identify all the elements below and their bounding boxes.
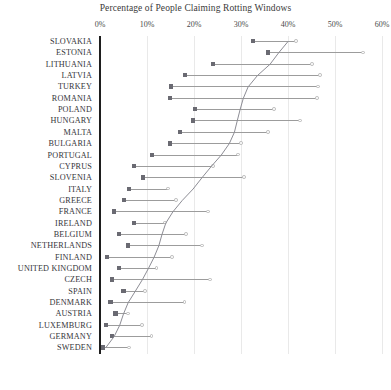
marker-low[interactable] <box>211 62 215 66</box>
chart-row[interactable]: PORTUGAL <box>100 150 387 161</box>
marker-high[interactable] <box>361 51 365 55</box>
category-label-cyprus: CYPRUS <box>59 161 92 172</box>
chart-row[interactable]: TURKEY <box>100 81 387 92</box>
marker-high[interactable] <box>206 210 210 214</box>
range-line <box>268 52 363 53</box>
marker-low[interactable] <box>150 153 154 157</box>
marker-high[interactable] <box>174 198 178 202</box>
chart-row[interactable]: ITALY <box>100 184 387 195</box>
marker-low[interactable] <box>117 232 121 236</box>
marker-low[interactable] <box>251 39 255 43</box>
chart-row[interactable]: GREECE <box>100 195 387 206</box>
category-label-poland: POLAND <box>58 104 92 115</box>
marker-high[interactable] <box>208 278 212 282</box>
marker-low[interactable] <box>117 266 121 270</box>
chart-row[interactable]: NETHERLANDS <box>100 240 387 251</box>
range-line <box>213 64 312 65</box>
marker-low[interactable] <box>110 277 114 281</box>
chart-row[interactable]: GERMANY <box>100 331 387 342</box>
marker-low[interactable] <box>113 311 117 315</box>
marker-high[interactable] <box>127 346 131 350</box>
chart-row[interactable]: SPAIN <box>100 286 387 297</box>
marker-low[interactable] <box>122 198 126 202</box>
marker-low[interactable] <box>126 243 130 247</box>
range-line <box>180 132 268 133</box>
marker-low[interactable] <box>191 118 195 122</box>
chart-row[interactable]: LITHUANIA <box>100 59 387 70</box>
chart-row[interactable]: LUXEMBURG <box>100 320 387 331</box>
marker-high[interactable] <box>316 85 320 89</box>
marker-low[interactable] <box>141 175 145 179</box>
marker-low[interactable] <box>104 323 108 327</box>
chart-row[interactable]: FRANCE <box>100 206 387 217</box>
marker-high[interactable] <box>242 175 246 179</box>
marker-low[interactable] <box>132 221 136 225</box>
marker-high[interactable] <box>166 187 170 191</box>
chart-row[interactable]: ESTONIA <box>100 47 387 58</box>
x-axis-tick-50: 50% <box>328 20 343 29</box>
marker-low[interactable] <box>193 107 197 111</box>
marker-high[interactable] <box>294 39 298 43</box>
marker-low[interactable] <box>178 130 182 134</box>
marker-low[interactable] <box>101 345 105 349</box>
marker-high[interactable] <box>236 153 240 157</box>
marker-high[interactable] <box>163 221 167 225</box>
marker-low[interactable] <box>169 84 173 88</box>
range-line <box>119 234 186 235</box>
range-line <box>114 211 208 212</box>
marker-high[interactable] <box>272 107 276 111</box>
marker-high[interactable] <box>315 96 319 100</box>
marker-low[interactable] <box>266 50 270 54</box>
marker-low[interactable] <box>110 334 114 338</box>
chart-row[interactable]: LATVIA <box>100 70 387 81</box>
range-line <box>129 189 168 190</box>
chart-row[interactable]: BULGARIA <box>100 138 387 149</box>
chart-row[interactable]: ROMANIA <box>100 93 387 104</box>
chart-row[interactable]: FINLAND <box>100 252 387 263</box>
marker-low[interactable] <box>105 255 109 259</box>
x-axis-tick-60: 60% <box>375 20 390 29</box>
marker-high[interactable] <box>183 300 187 304</box>
marker-low[interactable] <box>108 300 112 304</box>
marker-high[interactable] <box>310 62 314 66</box>
marker-high[interactable] <box>239 141 243 145</box>
marker-low[interactable] <box>112 209 116 213</box>
chart-row[interactable]: SLOVAKIA <box>100 36 387 47</box>
chart-row[interactable]: CYPRUS <box>100 161 387 172</box>
chart-row[interactable]: BELGIUM <box>100 229 387 240</box>
chart-row[interactable]: POLAND <box>100 104 387 115</box>
marker-high[interactable] <box>318 73 322 77</box>
chart-row[interactable]: IRELAND <box>100 218 387 229</box>
marker-high[interactable] <box>170 255 174 259</box>
chart-row[interactable]: SWEDEN <box>100 342 387 353</box>
category-label-netherlands: NETHERLANDS <box>31 240 92 251</box>
chart-row[interactable]: SLOVENIA <box>100 172 387 183</box>
chart-row[interactable]: MALTA <box>100 127 387 138</box>
category-label-romania: ROMANIA <box>52 93 92 104</box>
range-line <box>103 347 129 348</box>
marker-low[interactable] <box>132 164 136 168</box>
chart-row[interactable]: AUSTRIA <box>100 308 387 319</box>
marker-low[interactable] <box>168 141 172 145</box>
marker-high[interactable] <box>298 119 302 123</box>
marker-low[interactable] <box>121 289 125 293</box>
marker-high[interactable] <box>126 312 130 316</box>
marker-high[interactable] <box>155 266 159 270</box>
marker-low[interactable] <box>127 187 131 191</box>
chart-row[interactable]: CZECH <box>100 274 387 285</box>
marker-high[interactable] <box>140 323 144 327</box>
marker-high[interactable] <box>143 289 147 293</box>
chart-row[interactable]: DENMARK <box>100 297 387 308</box>
marker-high[interactable] <box>200 244 204 248</box>
chart-row[interactable]: UNITED KINGDOM <box>100 263 387 274</box>
marker-high[interactable] <box>184 232 188 236</box>
marker-high[interactable] <box>211 164 215 168</box>
chart-container: Percentage of People Claiming Rotting Wi… <box>0 0 391 390</box>
range-line <box>112 336 151 337</box>
marker-high[interactable] <box>266 130 270 134</box>
marker-low[interactable] <box>183 73 187 77</box>
x-axis-tick-20: 20% <box>187 20 202 29</box>
marker-low[interactable] <box>168 96 172 100</box>
marker-high[interactable] <box>150 334 154 338</box>
chart-row[interactable]: HUNGARY <box>100 115 387 126</box>
